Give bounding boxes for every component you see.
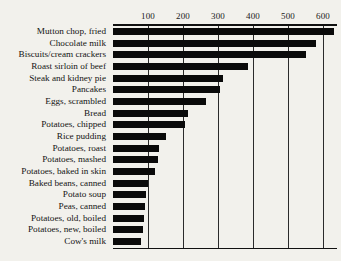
bar-row[interactable]	[113, 61, 337, 73]
bar[interactable]	[113, 238, 141, 245]
bar[interactable]	[113, 156, 158, 163]
bar-row[interactable]	[113, 178, 337, 190]
bar-row[interactable]	[113, 189, 337, 201]
bar[interactable]	[113, 28, 334, 35]
bar[interactable]	[113, 145, 159, 152]
bar-row[interactable]	[113, 49, 337, 61]
category-label: Chocolate milk	[0, 38, 110, 50]
x-tick-label: 500	[281, 11, 295, 21]
bar-row[interactable]	[113, 154, 337, 166]
bar-row[interactable]	[113, 201, 337, 213]
x-tick-label: 400	[246, 11, 260, 21]
chart-page: 100200300400500600 Mutton chop, friedCho…	[0, 0, 341, 261]
bar-row[interactable]	[113, 131, 337, 143]
category-label: Biscuits/cream crackers	[0, 49, 110, 61]
bar[interactable]	[113, 51, 306, 58]
bar-row[interactable]	[113, 119, 337, 131]
bar[interactable]	[113, 203, 145, 210]
category-label: Roast sirloin of beef	[0, 61, 110, 73]
plot-area	[113, 24, 337, 249]
bar[interactable]	[113, 110, 188, 117]
category-label: Potatoes, roast	[0, 143, 110, 155]
bar[interactable]	[113, 133, 166, 140]
bar-series	[113, 26, 337, 248]
bar[interactable]	[113, 40, 316, 47]
x-axis-tick-labels: 100200300400500600	[0, 11, 341, 23]
bar-row[interactable]	[113, 236, 337, 248]
x-tick-label: 100	[141, 11, 155, 21]
bar[interactable]	[113, 226, 143, 233]
bar[interactable]	[113, 75, 223, 82]
category-label: Potatoes, mashed	[0, 154, 110, 166]
category-label: Potatoes, old, boiled	[0, 213, 110, 225]
category-label: Cow's milk	[0, 236, 110, 248]
bar-row[interactable]	[113, 108, 337, 120]
bar-row[interactable]	[113, 26, 337, 38]
category-label: Potato soup	[0, 189, 110, 201]
bar-row[interactable]	[113, 166, 337, 178]
category-label: Steak and kidney pie	[0, 73, 110, 85]
category-label: Eggs, scrambled	[0, 96, 110, 108]
category-label: Baked beans, canned	[0, 178, 110, 190]
bar[interactable]	[113, 191, 146, 198]
category-label: Rice pudding	[0, 131, 110, 143]
axis-bottom-rule	[113, 248, 337, 249]
bar-row[interactable]	[113, 73, 337, 85]
bar[interactable]	[113, 121, 185, 128]
bar-row[interactable]	[113, 96, 337, 108]
category-label: Potatoes, baked in skin	[0, 166, 110, 178]
category-label: Potatoes, new, boiled	[0, 224, 110, 236]
bar-row[interactable]	[113, 84, 337, 96]
bar-row[interactable]	[113, 143, 337, 155]
bar-row[interactable]	[113, 38, 337, 50]
x-tick-label: 200	[176, 11, 190, 21]
bar[interactable]	[113, 215, 144, 222]
x-tick-label: 600	[316, 11, 330, 21]
category-label: Potatoes, chipped	[0, 119, 110, 131]
bar[interactable]	[113, 180, 148, 187]
x-tick-label: 300	[211, 11, 225, 21]
category-label: Peas, canned	[0, 201, 110, 213]
category-axis-labels: Mutton chop, friedChocolate milkBiscuits…	[0, 26, 110, 249]
category-label: Bread	[0, 108, 110, 120]
bar-row[interactable]	[113, 224, 337, 236]
bar[interactable]	[113, 86, 220, 93]
bar[interactable]	[113, 98, 206, 105]
bar-row[interactable]	[113, 213, 337, 225]
category-label: Mutton chop, fried	[0, 26, 110, 38]
category-label: Pancakes	[0, 84, 110, 96]
bar[interactable]	[113, 63, 248, 70]
bar[interactable]	[113, 168, 155, 175]
